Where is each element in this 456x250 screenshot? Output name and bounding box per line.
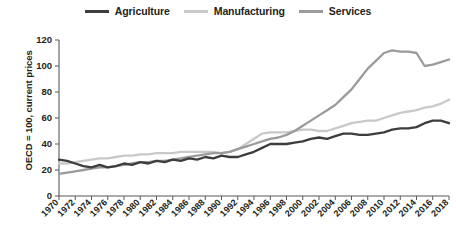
x-tick-label: 1980 xyxy=(120,197,141,218)
x-tick-label: 1996 xyxy=(250,197,271,218)
series-lines xyxy=(59,50,449,173)
y-tick-label: 120 xyxy=(36,34,52,45)
x-tick-label: 1990 xyxy=(202,197,223,218)
x-tick-label: 1972 xyxy=(55,197,76,218)
x-tick-label: 1998 xyxy=(267,197,288,218)
x-tick-label: 2004 xyxy=(315,197,336,218)
x-tick-label: 2000 xyxy=(283,197,304,218)
x-tick-label: 1986 xyxy=(169,197,190,218)
x-axis-ticks: 1970197219741976197819801982198419861988… xyxy=(39,196,450,219)
y-tick-label: 100 xyxy=(36,60,52,71)
x-tick-label: 2014 xyxy=(397,197,418,218)
y-axis-ticks: 020406080100120 xyxy=(36,34,59,201)
x-tick-label: 1974 xyxy=(72,197,93,218)
y-tick-label: 20 xyxy=(41,164,52,175)
x-tick-label: 1984 xyxy=(153,197,174,218)
x-tick-label: 2016 xyxy=(413,197,434,218)
series-line-manufacturing xyxy=(59,100,449,164)
x-tick-label: 2012 xyxy=(380,197,401,218)
x-tick-label: 1978 xyxy=(104,197,125,218)
plot-area: 020406080100120 197019721974197619781980… xyxy=(0,0,456,250)
y-tick-label: 80 xyxy=(41,86,52,97)
x-tick-label: 1970 xyxy=(39,197,60,218)
series-line-services xyxy=(59,50,449,173)
x-tick-label: 1994 xyxy=(234,197,255,218)
axis-lines xyxy=(59,40,449,196)
line-chart: Agriculture Manufacturing Services OECD … xyxy=(0,0,456,250)
x-tick-label: 2002 xyxy=(299,197,320,218)
x-tick-label: 1976 xyxy=(88,197,109,218)
x-tick-label: 1992 xyxy=(218,197,239,218)
x-tick-label: 2006 xyxy=(332,197,353,218)
x-tick-label: 1988 xyxy=(185,197,206,218)
y-tick-label: 60 xyxy=(41,112,52,123)
x-tick-label: 2018 xyxy=(429,197,450,218)
x-tick-label: 1982 xyxy=(137,197,158,218)
y-tick-label: 40 xyxy=(41,138,52,149)
x-tick-label: 2008 xyxy=(348,197,369,218)
x-tick-label: 2010 xyxy=(364,197,385,218)
